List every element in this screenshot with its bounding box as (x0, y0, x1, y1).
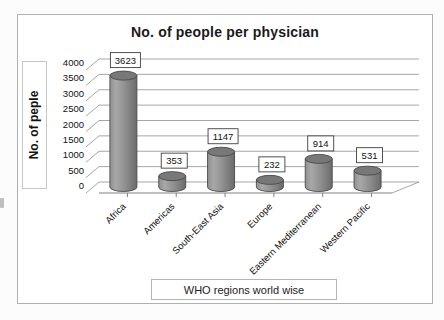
y-tick-label: 2000 (63, 119, 84, 130)
category-label-americas: Americas (141, 200, 177, 236)
category-label-western-pacific: Western Pacific (318, 200, 372, 254)
y-axis-connector (86, 105, 99, 116)
page: No. of people per physician No. of peple… (0, 0, 444, 320)
y-tick-label: 1500 (63, 134, 84, 145)
y-axis-connector (86, 74, 99, 85)
category-label-europe: Europe (245, 201, 274, 230)
y-axis-connector (86, 136, 99, 147)
y-axis-connector (86, 90, 99, 101)
y-tick-label: 3500 (63, 72, 84, 83)
category-label-africa: Africa (103, 200, 128, 225)
bar-top-eastern-mediterranean (305, 154, 332, 163)
bar-top-south-east-asia (208, 147, 235, 156)
value-label-africa: 3623 (115, 55, 136, 66)
plot-svg: 050010001500200025003000350040003623Afri… (0, 0, 444, 320)
y-tick-label: 0 (79, 180, 84, 191)
y-tick-label: 3000 (63, 88, 84, 99)
y-axis-connector (86, 59, 99, 70)
bar-cylinder-south-east-asia (208, 152, 235, 192)
bar-cylinder-africa (110, 76, 137, 192)
y-tick-label: 4000 (63, 57, 84, 68)
value-label-americas: 353 (166, 155, 182, 166)
value-label-south-east-asia: 1147 (213, 131, 233, 142)
value-label-western-pacific: 531 (362, 150, 378, 161)
bar-top-americas (159, 172, 186, 181)
y-axis-connector (86, 121, 99, 132)
bar-top-western-pacific (354, 166, 381, 175)
bar-top-europe (256, 175, 283, 184)
y-axis-connector (86, 182, 99, 193)
y-axis-connector (86, 167, 99, 178)
y-axis-connector (86, 151, 99, 162)
value-label-europe: 232 (264, 159, 280, 170)
scan-artifact (0, 198, 4, 208)
bar-top-africa (110, 71, 137, 80)
y-tick-label: 2500 (63, 103, 84, 114)
value-label-eastern-mediterranean: 914 (313, 138, 329, 149)
y-tick-label: 500 (68, 165, 84, 176)
floor-edge (392, 182, 419, 193)
category-label-south-east-asia: South-East Asia (170, 200, 226, 256)
y-tick-label: 1000 (63, 149, 84, 160)
